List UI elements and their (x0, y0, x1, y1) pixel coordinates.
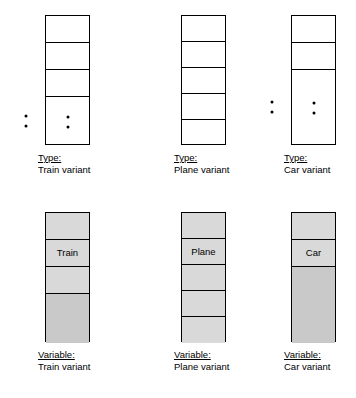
ellipsis-dots-icon (271, 101, 274, 114)
caption-kind: Variable: (38, 349, 90, 361)
variant-record-diagram: DateTagTimeType:Train variantDateTagTime… (0, 0, 356, 398)
record-cell: Car (292, 240, 335, 267)
record-box-type-train (45, 15, 90, 145)
record-cell (182, 94, 225, 120)
record-cell (182, 265, 225, 291)
caption-kind: Type: (284, 152, 330, 164)
caption-name: Plane variant (174, 361, 229, 373)
record-cell (182, 317, 225, 343)
record-cell (46, 267, 89, 294)
ellipsis-dots-icon (312, 102, 315, 115)
figure-caption-type-train: Type:Train variant (38, 152, 90, 176)
record-cell (46, 16, 89, 43)
figure-caption-type-plane: Type:Plane variant (174, 152, 229, 176)
record-cell: Train (46, 240, 89, 267)
caption-name: Train variant (38, 164, 90, 176)
cell-value: Plane (191, 247, 215, 257)
record-cell (182, 68, 225, 94)
caption-name: Plane variant (174, 164, 229, 176)
record-box-type-car (291, 15, 336, 145)
record-cell (292, 16, 335, 43)
cell-value: Train (57, 248, 78, 258)
record-cell (292, 213, 335, 240)
caption-kind: Variable: (174, 349, 229, 361)
record-cell (182, 42, 225, 68)
caption-kind: Type: (174, 152, 229, 164)
record-box-variable-plane: Plane (181, 212, 226, 342)
figure-caption-type-car: Type:Car variant (284, 152, 330, 176)
record-cell (46, 43, 89, 70)
record-cell (46, 213, 89, 240)
caption-kind: Variable: (284, 349, 330, 361)
figure-caption-variable-car: Variable:Car variant (284, 349, 330, 373)
caption-kind: Type: (38, 152, 90, 164)
record-box-variable-train: Train (45, 212, 90, 342)
caption-name: Train variant (38, 361, 90, 373)
record-cell (292, 43, 335, 70)
cell-value: Car (306, 248, 321, 258)
figure-caption-variable-plane: Variable:Plane variant (174, 349, 229, 373)
record-cell (46, 97, 89, 146)
figure-caption-variable-train: Variable:Train variant (38, 349, 90, 373)
ellipsis-dots-icon (25, 114, 28, 127)
record-box-variable-car: Car (291, 212, 336, 342)
record-cell (182, 120, 225, 146)
ellipsis-dots-icon (66, 115, 69, 128)
record-cell (182, 213, 225, 239)
record-cell (292, 267, 335, 343)
record-cell (182, 16, 225, 42)
record-cell: Plane (182, 239, 225, 265)
caption-name: Car variant (284, 164, 330, 176)
caption-name: Car variant (284, 361, 330, 373)
record-cell (292, 70, 335, 146)
record-cell (46, 70, 89, 97)
record-box-type-plane (181, 15, 226, 145)
record-cell (46, 294, 89, 343)
record-cell (182, 291, 225, 317)
